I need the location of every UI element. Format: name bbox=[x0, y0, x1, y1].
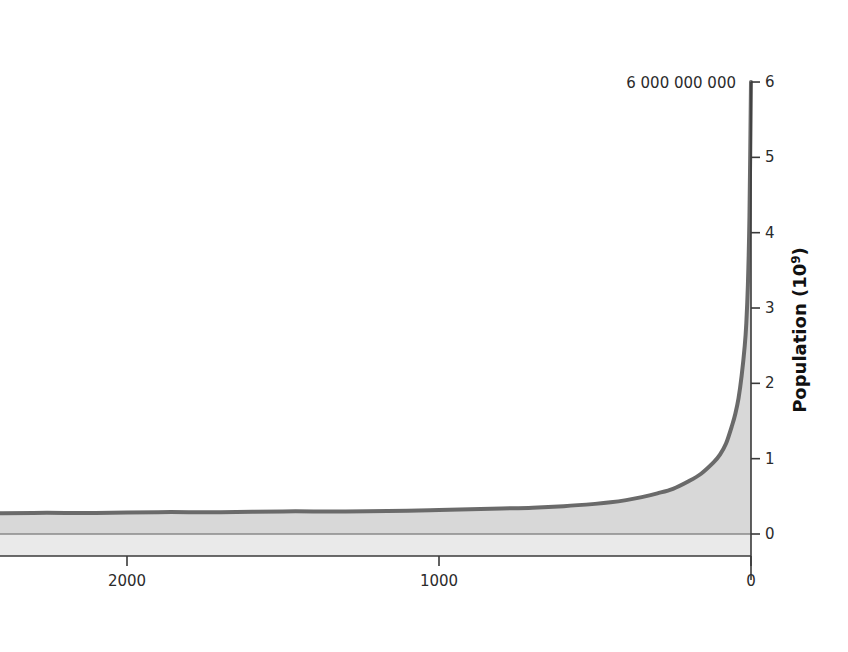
y-axis-ticks: 0123456 bbox=[751, 73, 775, 543]
y-axis-title: Population (109) bbox=[789, 247, 810, 413]
y-axis-tick-label: 4 bbox=[765, 224, 775, 242]
y-axis-tick-label: 1 bbox=[765, 450, 775, 468]
y-axis-tick-label: 2 bbox=[765, 374, 775, 392]
y-axis-title-group: Population (109) bbox=[789, 247, 810, 413]
x-axis-tick-label: 1000 bbox=[420, 572, 458, 590]
baseline-band bbox=[0, 534, 751, 556]
population-area-fill bbox=[0, 82, 751, 534]
y-axis-tick-label: 6 bbox=[765, 73, 775, 91]
x-axis-ticks: 200010000 bbox=[108, 556, 756, 590]
peak-population-label: 6 000 000 000 bbox=[626, 74, 736, 92]
population-chart: 0123456 200010000 6 000 000 000 Populati… bbox=[0, 0, 848, 652]
y-axis-title-main: Population (10 bbox=[789, 264, 810, 413]
y-axis-title-close: ) bbox=[789, 247, 810, 255]
x-axis-tick-label: 2000 bbox=[108, 572, 146, 590]
chart-canvas: 0123456 200010000 6 000 000 000 Populati… bbox=[0, 0, 848, 652]
y-axis-tick-label: 5 bbox=[765, 148, 775, 166]
x-axis-tick-label: 0 bbox=[746, 572, 756, 590]
y-axis-title-exponent: 9 bbox=[789, 255, 803, 263]
population-curve-line bbox=[0, 82, 751, 514]
y-axis-tick-label: 3 bbox=[765, 299, 775, 317]
y-axis-tick-label: 0 bbox=[765, 525, 775, 543]
